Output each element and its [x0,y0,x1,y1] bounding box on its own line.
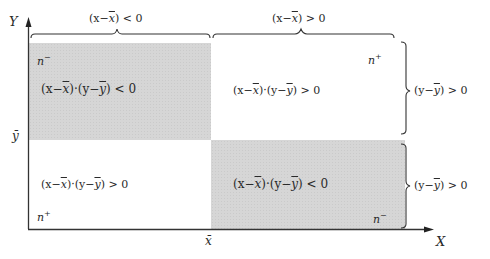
right-upper-brace [401,42,410,134]
quadrant-top-left-expression: (x−x)·(y−y) < 0 [41,82,136,96]
right-upper-brace-label: (y−y) > 0 [414,84,467,97]
top-right-brace-label: (x−x) > 0 [272,12,325,25]
right-lower-brace [401,144,410,228]
quadrant-top-right-expression: (x−x)·(y−y) > 0 [233,84,320,97]
quadrant-top-left-count: n− [37,53,51,68]
x-axis-arrow-icon [424,227,434,233]
top-left-brace-label: (x−x) < 0 [89,12,142,25]
x-axis-label: X [436,234,445,249]
right-lower-brace-label: (y−y) > 0 [414,179,467,192]
top-left-brace [31,29,210,38]
quadrant-bottom-right-count: n− [373,211,387,226]
axes-and-braces [0,0,490,259]
y-axis-arrow-icon [26,17,32,27]
quadrant-bottom-left-expression: (x−x)·(y−y) > 0 [41,178,128,191]
y-mean-tick-label: ȳ [12,129,19,143]
quadrant-top-right-count: n+ [368,52,382,67]
top-right-brace [213,29,394,38]
x-mean-tick-label: x̄ [205,234,212,248]
quadrant-bottom-left-count: n+ [37,209,51,224]
y-axis-label: Y [9,14,18,29]
quadrant-bottom-right-expression: (x−x)·(y−y) < 0 [233,177,328,191]
